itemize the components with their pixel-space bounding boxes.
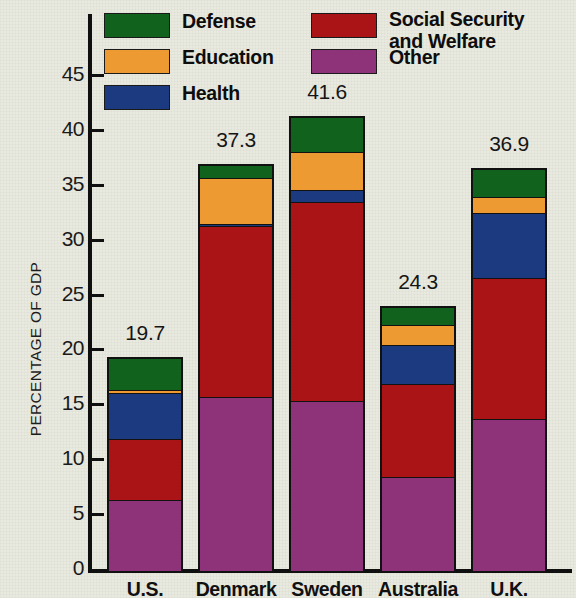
bar-segment-health[interactable]: [109, 394, 181, 439]
bar-total-label: 36.9: [454, 132, 564, 156]
bar-segment-health[interactable]: [473, 214, 545, 278]
bar-segment-health[interactable]: [291, 191, 363, 203]
stacked-bar[interactable]: [198, 164, 274, 573]
bar-segment-defense[interactable]: [200, 166, 272, 179]
bar-group: [380, 306, 456, 573]
x-axis-category-label: U.K.: [449, 578, 569, 598]
legend-item-defense[interactable]: Defense: [104, 10, 304, 43]
y-axis-tick-label: 45: [40, 62, 84, 86]
bar-group: [107, 357, 183, 573]
legend-label-health: Health: [182, 82, 240, 104]
bar-segment-other[interactable]: [382, 478, 454, 571]
legend-column-right: Social Security and WelfareOther: [311, 10, 571, 82]
bar-segment-education[interactable]: [473, 198, 545, 214]
y-axis-tick-label: 0: [40, 556, 84, 580]
bar-segment-other[interactable]: [200, 398, 272, 571]
legend-swatch-health: [104, 85, 170, 110]
bar-segment-other[interactable]: [109, 501, 181, 571]
bar-segment-defense[interactable]: [473, 170, 545, 198]
legend-item-social[interactable]: Social Security and Welfare: [311, 10, 571, 43]
y-axis-title: PERCENTAGE OF GDP: [27, 249, 45, 449]
bar-segment-defense[interactable]: [109, 359, 181, 391]
bar-segment-education[interactable]: [291, 153, 363, 191]
bar-segment-social-security-and-welfare[interactable]: [109, 440, 181, 501]
bar-group: [198, 164, 274, 573]
bar-group: [289, 116, 365, 573]
bar-total-label: 37.3: [181, 128, 291, 152]
legend-label-other: Other: [389, 46, 440, 68]
legend-swatch-other: [311, 49, 377, 74]
legend-label-education: Education: [182, 46, 274, 68]
y-axis-tick-label: 30: [40, 227, 84, 251]
y-axis-tick-label: 5: [40, 501, 84, 525]
bar-total-label: 19.7: [90, 321, 200, 345]
legend-swatch-education: [104, 49, 170, 74]
stacked-bar[interactable]: [471, 168, 547, 573]
legend-swatch-social: [311, 13, 377, 38]
stacked-bar-chart: 051015202530354045 PERCENTAGE OF GDP U.S…: [0, 0, 576, 598]
y-axis-tick-label: 40: [40, 117, 84, 141]
y-axis-tick-label: 20: [40, 336, 84, 360]
bar-group: [471, 168, 547, 573]
bar-segment-education[interactable]: [200, 179, 272, 226]
stacked-bar[interactable]: [107, 357, 183, 573]
legend-label-defense: Defense: [182, 10, 256, 32]
legend-item-education[interactable]: Education: [104, 46, 304, 79]
bar-segment-defense[interactable]: [382, 308, 454, 325]
y-axis-tick-label: 15: [40, 391, 84, 415]
y-axis-tick-label: 10: [40, 446, 84, 470]
bar-segment-education[interactable]: [382, 326, 454, 347]
y-axis-tick-label: 25: [40, 282, 84, 306]
bar-segment-other[interactable]: [473, 420, 545, 571]
bar-segment-social-security-and-welfare[interactable]: [291, 203, 363, 402]
legend-item-other[interactable]: Other: [311, 46, 571, 79]
bar-segment-other[interactable]: [291, 402, 363, 571]
legend-swatch-defense: [104, 13, 170, 38]
stacked-bar[interactable]: [289, 116, 365, 573]
bar-segment-social-security-and-welfare[interactable]: [382, 385, 454, 478]
bar-segment-social-security-and-welfare[interactable]: [200, 227, 272, 398]
bar-segment-social-security-and-welfare[interactable]: [473, 279, 545, 420]
bar-segment-health[interactable]: [382, 346, 454, 385]
bar-total-label: 24.3: [363, 270, 473, 294]
bar-segment-defense[interactable]: [291, 118, 363, 153]
bar-total-label: 41.6: [272, 80, 382, 104]
y-axis-tick-label: 35: [40, 172, 84, 196]
stacked-bar[interactable]: [380, 306, 456, 573]
